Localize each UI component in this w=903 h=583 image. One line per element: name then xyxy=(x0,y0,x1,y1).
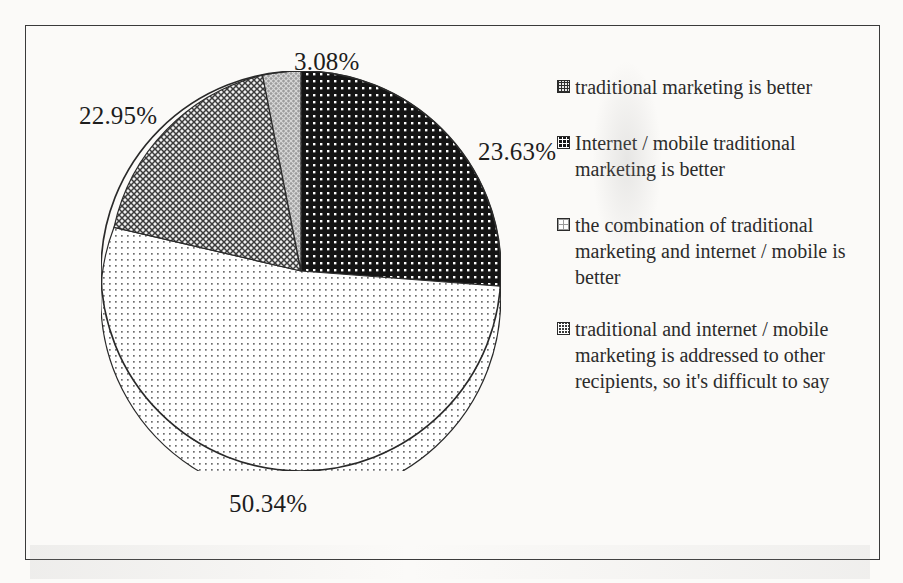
legend: traditional marketing is better Internet… xyxy=(557,74,857,394)
pie-label-3-08: 3.08% xyxy=(294,48,360,76)
legend-label-other-recipients: traditional and internet / mobile market… xyxy=(575,316,857,394)
pie-label-23-63: 23.63% xyxy=(478,138,556,166)
pie-svg xyxy=(101,71,501,471)
pie-chart xyxy=(101,71,501,471)
legend-item-traditional[interactable]: traditional marketing is better xyxy=(557,74,857,100)
legend-swatch-light-dot-icon xyxy=(557,218,570,231)
legend-label-internet-mobile: Internet / mobile traditional marketing … xyxy=(575,130,857,182)
legend-swatch-dark-dot-icon xyxy=(557,136,570,149)
chart-frame: 3.08% 23.63% 22.95% 50.34% traditional m… xyxy=(25,25,880,560)
legend-item-internet-mobile[interactable]: Internet / mobile traditional marketing … xyxy=(557,130,857,182)
legend-item-other-recipients[interactable]: traditional and internet / mobile market… xyxy=(557,316,857,394)
legend-swatch-crosshatch-light-icon xyxy=(557,80,570,93)
legend-swatch-crosshatch-dark-icon xyxy=(557,322,570,335)
legend-item-combination[interactable]: the combination of traditional marketing… xyxy=(557,212,857,290)
pie-label-22-95: 22.95% xyxy=(79,102,157,130)
legend-label-combination: the combination of traditional marketing… xyxy=(575,212,857,290)
pie-slice-internet-mobile xyxy=(301,71,501,286)
legend-label-traditional: traditional marketing is better xyxy=(575,74,812,100)
pie-label-50-34: 50.34% xyxy=(229,490,307,518)
